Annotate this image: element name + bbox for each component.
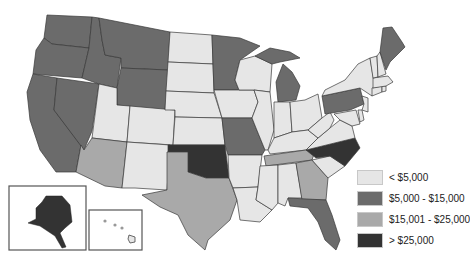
state-nm[interactable] [122,142,170,190]
legend-swatch [357,191,383,206]
legend-swatch [357,212,383,227]
legend-swatch [357,170,383,185]
legend-item-15001-25000: $15,001 - $25,000 [357,209,470,230]
state-ny[interactable] [322,58,375,96]
state-me[interactable] [380,27,405,70]
legend-label: < $5,000 [389,172,428,183]
state-mi[interactable] [276,64,300,102]
legend-label: > $25,000 [389,235,434,246]
state-hi-island [113,223,116,226]
state-ma[interactable] [373,76,393,88]
state-ia[interactable] [214,90,258,118]
hawaii-inset-frame [89,210,142,250]
state-fl[interactable] [288,198,340,250]
legend-item-gt25000: > $25,000 [357,230,470,251]
legend-label: $5,000 - $15,000 [389,193,465,204]
state-hi-islands [103,219,106,222]
state-nd[interactable] [168,32,213,64]
state-ar[interactable] [228,155,262,188]
legend-label: $15,001 - $25,000 [389,214,470,225]
state-wy[interactable] [117,68,168,110]
state-co[interactable] [127,106,175,145]
state-hi-island [120,226,123,229]
legend-item-5000-15000: $5,000 - $15,000 [357,188,470,209]
state-ri[interactable] [382,86,386,92]
state-ks[interactable] [173,117,225,145]
legend: < $5,000 $5,000 - $15,000 $15,001 - $25,… [357,167,470,251]
legend-swatch [357,233,383,248]
state-sd[interactable] [166,62,214,93]
legend-item-lt5000: < $5,000 [357,167,470,188]
